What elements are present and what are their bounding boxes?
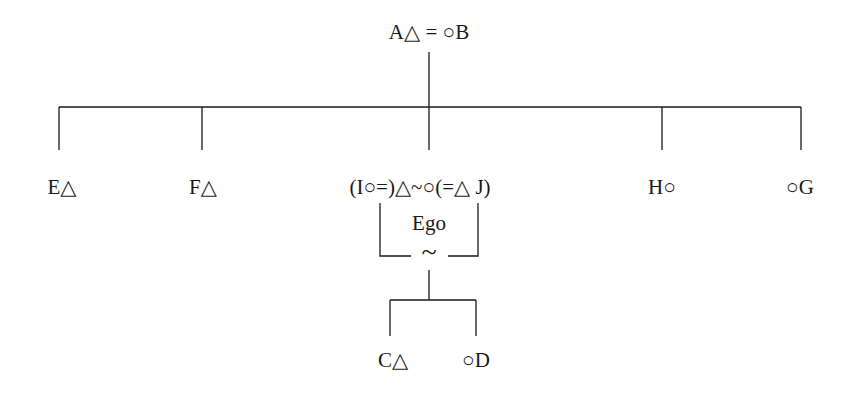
ego-label: Ego — [412, 213, 446, 234]
grandchild-d-node: ○D — [462, 350, 490, 371]
parents-node: A△ = ○B — [389, 22, 469, 43]
child-f-node: F△ — [189, 177, 217, 198]
child-g-node: ○G — [786, 177, 814, 198]
union-bracket-left — [380, 203, 411, 256]
ego-couple-node: (I○=)△~○(=△ J) — [349, 177, 490, 198]
union-tilde-symbol: ~ — [421, 238, 436, 266]
child-e-node: E△ — [48, 177, 77, 198]
kinship-diagram: A△ = ○B E△ F△ (I○=)△~○(=△ J) H○ ○G Ego ~… — [0, 0, 861, 396]
child-h-node: H○ — [648, 177, 676, 198]
union-bracket-right — [448, 203, 478, 256]
grandchild-c-node: C△ — [378, 350, 408, 371]
